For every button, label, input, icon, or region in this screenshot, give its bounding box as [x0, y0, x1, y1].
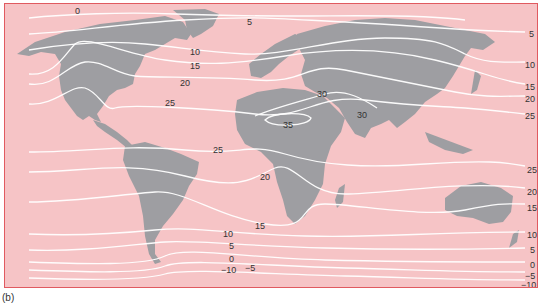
isotherm-label: 25 — [525, 112, 535, 121]
isotherm-label: 15 — [527, 204, 537, 213]
south-america — [123, 142, 199, 264]
isotherm-label: 0 — [75, 7, 80, 16]
isotherm-label: 20 — [180, 79, 190, 88]
isotherm-0-south — [29, 252, 525, 264]
isotherm-label: 25 — [165, 99, 175, 108]
isotherm-label: 25 — [213, 146, 223, 155]
australia — [445, 182, 513, 224]
isotherm-label: 20 — [527, 188, 537, 197]
figure-caption: (b) — [2, 292, 14, 303]
isotherm-label: 5 — [229, 242, 234, 251]
isotherm-10-south — [29, 229, 525, 237]
isotherm-label: 35 — [283, 121, 293, 130]
isotherm-label: −10 — [521, 281, 536, 288]
isotherm-label: 5 — [247, 18, 252, 27]
isotherm-label: 20 — [260, 173, 270, 182]
isotherm-label: 15 — [190, 62, 200, 71]
indonesia — [425, 132, 473, 154]
isotherm-label: 10 — [525, 61, 535, 70]
map-graphic — [5, 4, 538, 288]
isotherm-5-south — [29, 242, 525, 251]
isotherm-label: 20 — [525, 95, 535, 104]
landmasses — [17, 9, 519, 264]
japan — [471, 70, 481, 94]
isotherm-label: 15 — [525, 83, 535, 92]
isotherm-minus10 — [29, 271, 525, 280]
isotherm-label: 10 — [527, 231, 537, 240]
isotherm-label: 10 — [223, 230, 233, 239]
isotherm-label: 5 — [529, 30, 534, 39]
isotherm-label: 5 — [530, 246, 535, 255]
isotherm-label: −10 — [221, 266, 236, 275]
isotherm-label: −5 — [245, 264, 255, 273]
central-america — [93, 120, 133, 148]
isotherm-label: 0 — [530, 261, 535, 270]
isotherm-world-map: 0 5 10 15 20 25 30 35 30 25 5 10 15 20 2… — [4, 3, 538, 288]
isotherm-label: 10 — [190, 48, 200, 57]
isotherm-label: 30 — [317, 90, 327, 99]
isotherm-label: 15 — [255, 222, 265, 231]
isotherm-label: 25 — [527, 166, 537, 175]
europe — [249, 34, 305, 78]
isotherm-label: 30 — [357, 111, 367, 120]
isotherm-label: 0 — [229, 255, 234, 264]
